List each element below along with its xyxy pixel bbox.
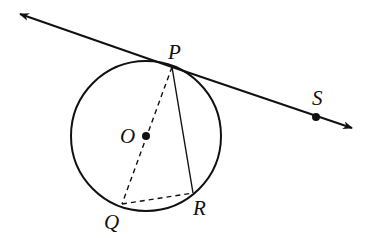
label-r: R — [193, 198, 206, 219]
label-o: O — [120, 126, 135, 147]
point-s — [312, 113, 320, 121]
label-q: Q — [104, 212, 119, 233]
tangent-line — [172, 67, 352, 128]
point-o — [142, 132, 150, 140]
label-p: P — [168, 42, 181, 63]
chord-pr — [172, 67, 193, 193]
diagram-canvas — [0, 0, 367, 238]
geometry-diagram: P S O Q R — [0, 0, 367, 238]
label-s: S — [312, 88, 323, 109]
tangent-line-left — [20, 14, 172, 67]
